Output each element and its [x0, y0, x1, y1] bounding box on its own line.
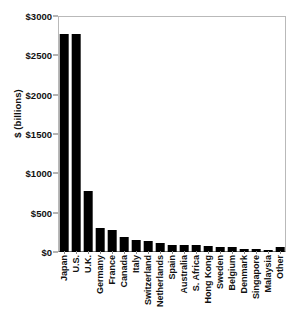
bar-slot	[58, 16, 70, 252]
bar-slot	[142, 16, 154, 252]
bar-slot	[214, 16, 226, 252]
x-axis-tick-mark	[220, 251, 221, 254]
y-axis-tick-label: $0	[41, 247, 52, 258]
x-axis-label-slot: Other	[274, 253, 286, 335]
y-axis-tick-labels: $0$500$1000$1500$2000$2500$3000	[0, 0, 58, 335]
x-axis-label-slot: Germany	[94, 253, 106, 335]
x-axis-label-slot: Japan	[58, 253, 70, 335]
x-axis-label-slot: Australia	[178, 253, 190, 335]
x-axis-tick-label: Malaysia	[263, 255, 273, 293]
x-axis-label-slot: U.S.	[70, 253, 82, 335]
bar-slot	[70, 16, 82, 252]
x-axis-label-slot: Spain	[166, 253, 178, 335]
x-axis-tick-label: Sweden	[215, 255, 225, 289]
x-axis-label-slot: Singapore	[250, 253, 262, 335]
x-axis-label-slot: U.K.	[82, 253, 94, 335]
x-axis-label-slot: Hong Kong	[202, 253, 214, 335]
x-axis-label-slot: Switzerland	[142, 253, 154, 335]
bar-slot	[262, 16, 274, 252]
bar-slot	[202, 16, 214, 252]
y-axis-tick-label: $2500	[26, 50, 52, 61]
bar-slot	[106, 16, 118, 252]
y-axis-tick-label: $2000	[26, 89, 52, 100]
x-axis-tick-label: Netherlands	[155, 255, 165, 307]
x-axis-tick-mark	[208, 251, 209, 254]
bar-slot	[250, 16, 262, 252]
x-axis-label-slot: S. Africa	[190, 253, 202, 335]
x-axis-tick-label: Switzerland	[143, 255, 153, 305]
x-axis-label-slot: Netherlands	[154, 253, 166, 335]
y-axis-tick-label: $500	[31, 207, 52, 218]
y-axis-tick-label: $1500	[26, 129, 52, 140]
x-axis-tick-label: U.S.	[71, 255, 81, 273]
y-axis-tick-label: $1000	[26, 168, 52, 179]
x-axis-tick-label: France	[107, 255, 117, 285]
bar-slot	[94, 16, 106, 252]
x-axis-tick-mark	[76, 251, 77, 254]
bar	[72, 34, 81, 252]
x-axis-tick-label: Singapore	[251, 255, 261, 299]
bar-slot	[226, 16, 238, 252]
x-axis-label-slot: Denmark	[238, 253, 250, 335]
bar-slot	[238, 16, 250, 252]
x-axis-tick-mark	[136, 251, 137, 254]
x-axis-label-slot: Canada	[118, 253, 130, 335]
bar	[84, 191, 93, 252]
x-axis-tick-mark	[160, 251, 161, 254]
bar-slot	[274, 16, 286, 252]
x-axis-tick-label: Australia	[179, 255, 189, 294]
bar	[108, 230, 117, 252]
x-axis-tick-mark	[232, 251, 233, 254]
x-axis-tick-label: Canada	[119, 255, 129, 288]
bar-chart: $ (billions) $0$500$1000$1500$2000$2500$…	[0, 0, 293, 335]
x-axis-label-slot: Belgium	[226, 253, 238, 335]
x-axis-label-slot: France	[106, 253, 118, 335]
x-axis-category-labels: JapanU.S.U.K.GermanyFranceCanadaItalySwi…	[58, 253, 286, 335]
x-axis-tick-mark	[280, 251, 281, 254]
x-axis-tick-mark	[64, 251, 65, 254]
bar-slot	[166, 16, 178, 252]
x-axis-tick-mark	[148, 251, 149, 254]
x-axis-tick-label: Japan	[59, 255, 69, 281]
bar	[96, 228, 105, 252]
bar-slot	[130, 16, 142, 252]
bar	[120, 237, 129, 252]
bar-slot	[118, 16, 130, 252]
bar-slot	[82, 16, 94, 252]
bar-slot	[178, 16, 190, 252]
x-axis-tick-mark	[172, 251, 173, 254]
x-axis-tick-mark	[88, 251, 89, 254]
y-axis-tick-label: $3000	[26, 11, 52, 22]
x-axis-tick-label: Denmark	[239, 255, 249, 294]
bar-slot	[154, 16, 166, 252]
x-axis-tick-label: U.K.	[83, 255, 93, 273]
x-axis-tick-mark	[256, 251, 257, 254]
x-axis-label-slot: Italy	[130, 253, 142, 335]
x-axis-tick-label: Hong Kong	[203, 255, 213, 304]
bar-slot	[190, 16, 202, 252]
x-axis-label-slot: Sweden	[214, 253, 226, 335]
x-axis-tick-mark	[112, 251, 113, 254]
x-axis-tick-label: Italy	[131, 255, 141, 273]
bars-layer	[58, 16, 286, 252]
x-axis-tick-label: Spain	[167, 255, 177, 280]
x-axis-tick-label: S. Africa	[191, 255, 201, 291]
x-axis-label-slot: Malaysia	[262, 253, 274, 335]
x-axis-tick-mark	[100, 251, 101, 254]
bar	[60, 34, 69, 252]
x-axis-tick-label: Belgium	[227, 255, 237, 291]
x-axis-tick-mark	[196, 251, 197, 254]
x-axis-tick-label: Other	[275, 255, 285, 279]
x-axis-tick-label: Germany	[95, 255, 105, 294]
